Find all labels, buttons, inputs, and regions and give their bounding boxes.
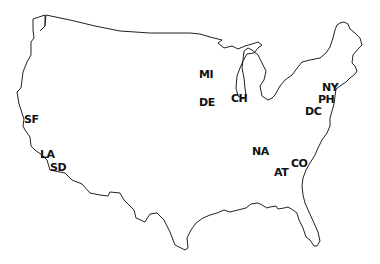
city-label-de: DE (199, 97, 215, 108)
city-label-at: AT (274, 167, 288, 178)
coastline-border (17, 15, 362, 250)
city-label-co: CO (291, 158, 307, 169)
us-outline (0, 0, 380, 264)
city-label-na: NA (252, 146, 269, 157)
city-label-ny: NY (322, 82, 338, 93)
city-label-dc: DC (305, 106, 321, 117)
city-label-mi: MI (199, 69, 213, 80)
city-label-ph: PH (318, 94, 334, 105)
city-label-sd: SD (50, 162, 66, 173)
city-label-la: LA (40, 149, 55, 160)
city-label-ch: CH (231, 93, 247, 104)
city-label-sf: SF (24, 114, 38, 125)
us-map: SF LA SD MI DE CH NY PH DC NA AT CO (0, 0, 380, 264)
